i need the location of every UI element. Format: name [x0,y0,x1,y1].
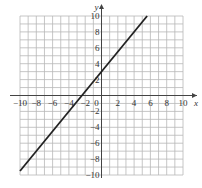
x-tick-label: −2 [80,98,90,108]
y-tick-label: 8 [95,27,100,37]
y-tick-label: −8 [90,154,100,164]
x-tick-label: −8 [32,98,42,108]
data-line [20,16,147,171]
x-tick-label: 6 [148,98,153,108]
x-tick-label: 4 [132,98,137,108]
coordinate-plane: xy−10−8−6−4−20246810−10−8−6−4−2246810 [0,0,202,188]
y-tick-label: −10 [85,170,100,180]
y-tick-label: 10 [91,11,101,21]
x-axis-label: x [193,98,198,108]
y-tick-label: 6 [95,43,100,53]
y-tick-label: −2 [90,106,100,116]
y-tick-label: −4 [90,122,100,132]
y-axis-arrow-icon [99,4,104,9]
x-tick-label: 10 [179,98,189,108]
y-tick-label: 4 [95,59,100,69]
x-tick-label: 2 [116,98,121,108]
x-tick-label: −6 [48,98,58,108]
x-tick-label: −10 [13,98,28,108]
x-tick-label: 8 [164,98,169,108]
y-tick-label: −6 [90,138,100,148]
